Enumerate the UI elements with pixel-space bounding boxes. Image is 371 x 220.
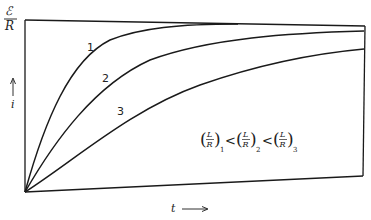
term-2-den: R	[242, 140, 249, 149]
term-3-den: R	[279, 140, 286, 149]
curves	[25, 24, 364, 192]
emf-symbol: ℰ	[5, 4, 14, 18]
plot-frame	[25, 20, 365, 192]
asymptote-label: ℰ R	[4, 4, 17, 33]
term-1-den: R	[206, 140, 213, 149]
time-label: t	[171, 202, 176, 215]
less-than-1: <	[225, 133, 236, 148]
term-3-sub: 3	[293, 146, 297, 154]
term-3-num: L	[279, 130, 285, 139]
curve-1-label: 1	[87, 41, 94, 54]
resistance-symbol: R	[4, 19, 14, 33]
curve-1	[25, 24, 238, 192]
term-2-sub: 2	[256, 146, 260, 154]
time-constant-relation: ( L R ) 1 < ( L R ) 2 < ( L R ) 3	[200, 129, 297, 154]
relation-term-2: ( L R ) 2	[236, 129, 260, 154]
x-axis-label-group: t	[171, 202, 208, 215]
term-1-sub: 1	[220, 146, 224, 154]
relation-term-3: ( L R ) 3	[273, 129, 297, 154]
relation-term-1: ( L R ) 1	[200, 129, 224, 154]
rl-current-diagram: 1 2 3 ℰ R i t ( L R ) 1 < ( L	[0, 0, 371, 220]
y-axis-label-group: i	[11, 78, 16, 111]
term-2-num: L	[242, 130, 248, 139]
term-1-num: L	[206, 130, 212, 139]
less-than-2: <	[262, 133, 273, 148]
current-label: i	[11, 98, 15, 111]
curve-2-label: 2	[102, 72, 109, 85]
curve-3-label: 3	[117, 105, 124, 118]
x-axis	[25, 176, 363, 192]
